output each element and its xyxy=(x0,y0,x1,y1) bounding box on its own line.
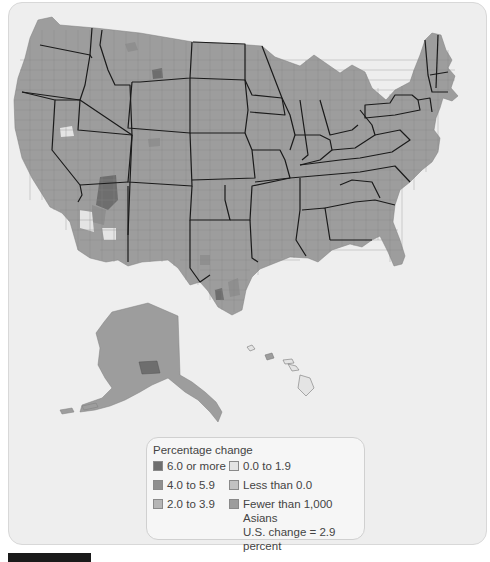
legend-item-4-to-5-9: 4.0 to 5.9 xyxy=(153,478,215,492)
legend-swatch xyxy=(153,461,163,471)
legend-swatch xyxy=(229,480,239,490)
us-change-note: U.S. change = 2.9 percent xyxy=(243,526,335,552)
legend-item-0-to-1-9: 0.0 to 1.9 xyxy=(229,459,291,473)
legend-label: Fewer than 1,000 Asians xyxy=(243,498,333,524)
legend-swatch xyxy=(153,480,163,490)
legend-swatch xyxy=(229,499,239,509)
hawaii-islands xyxy=(247,345,314,396)
legend-item-6-or-more: 6.0 or more xyxy=(153,459,226,473)
legend-title: Percentage change xyxy=(153,444,364,456)
legend-label: 6.0 or more xyxy=(167,459,226,473)
legend-item-2-to-3-9: 2.0 to 3.9 xyxy=(153,497,215,511)
footer-bar xyxy=(8,553,91,562)
legend-item-less-than-0: Less than 0.0 xyxy=(229,478,312,492)
legend-label: 2.0 to 3.9 xyxy=(167,497,215,511)
legend-swatch xyxy=(153,499,163,509)
map-legend: Percentage change 6.0 or more 4.0 to 5.9… xyxy=(146,437,365,540)
alaska-dark-county xyxy=(139,361,160,374)
contiguous-us-landmass xyxy=(14,17,458,315)
legend-label-block: Fewer than 1,000 Asians U.S. change = 2.… xyxy=(243,497,364,553)
legend-swatch xyxy=(229,461,239,471)
legend-label: Less than 0.0 xyxy=(243,478,312,492)
legend-label: 4.0 to 5.9 xyxy=(167,478,215,492)
legend-label: 0.0 to 1.9 xyxy=(243,459,291,473)
legend-item-fewer-than-1000: Fewer than 1,000 Asians U.S. change = 2.… xyxy=(229,497,364,553)
